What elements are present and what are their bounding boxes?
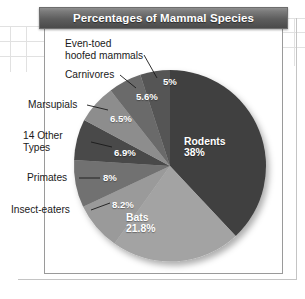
value-insect-eaters: 8.2% bbox=[112, 200, 134, 211]
label-bats-value: 21.8% bbox=[126, 223, 155, 234]
value-carnivores: 5.6% bbox=[136, 92, 158, 103]
value-even-toed: 5% bbox=[163, 77, 177, 88]
label-bats-name: Bats bbox=[126, 212, 149, 223]
label-rodents-value: 38% bbox=[184, 147, 205, 158]
callout-even-toed-line2: hoofed mammals bbox=[65, 50, 143, 61]
value-marsupials: 6.5% bbox=[110, 114, 132, 125]
pie-slices bbox=[74, 70, 266, 262]
label-rodents: Rodents 38% bbox=[184, 137, 226, 158]
background-grid-left bbox=[0, 26, 44, 72]
callout-carnivores: Carnivores bbox=[65, 69, 114, 81]
page-title: Percentages of Mammal Species bbox=[73, 12, 254, 24]
figure-root: Percentages of Mammal Species bbox=[0, 0, 305, 299]
callout-even-toed-hoofed-mammals: Even-toed hoofed mammals bbox=[65, 38, 165, 62]
value-primates: 8% bbox=[103, 173, 117, 184]
callout-insect-eaters: Insect-eaters bbox=[11, 204, 70, 216]
pie-chart: Even-toed hoofed mammals Carnivores Mars… bbox=[44, 30, 283, 274]
label-bats: Bats 21.8% bbox=[126, 213, 155, 234]
page-edge-line-right bbox=[296, 18, 297, 280]
page-edge-line-bottom bbox=[18, 279, 297, 280]
value-14-other-types: 6.9% bbox=[114, 148, 136, 159]
callout-marsupials: Marsupials bbox=[28, 99, 77, 111]
callout-primates: Primates bbox=[27, 172, 67, 184]
callout-14-other-line1: 14 Other bbox=[23, 130, 63, 141]
label-rodents-name: Rodents bbox=[184, 136, 226, 147]
chart-title-bar: Percentages of Mammal Species bbox=[39, 7, 288, 29]
callout-even-toed-line1: Even-toed bbox=[65, 38, 111, 49]
callout-14-other-types: 14 Other Types bbox=[23, 130, 93, 154]
callout-14-other-line2: Types bbox=[23, 142, 50, 153]
